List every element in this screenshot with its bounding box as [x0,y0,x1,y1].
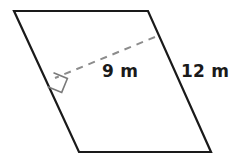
geometry-canvas [0,0,242,164]
side-dimension-label: 12 m [181,63,229,80]
parallelogram-diagram: 9 m 12 m [0,0,242,164]
height-dimension-label: 9 m [102,63,138,80]
